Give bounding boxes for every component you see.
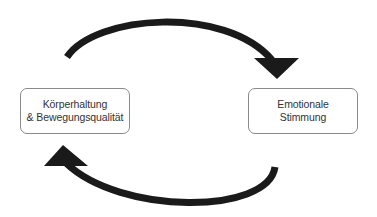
node-label-line: Stimmung: [280, 111, 326, 124]
node-label-line: Körperhaltung: [43, 98, 108, 111]
curved-arrow-left-icon: [44, 145, 275, 203]
curved-arrow-right-icon: [67, 22, 299, 79]
node-body-posture: Körperhaltung & Bewegungsqualität: [20, 88, 130, 134]
node-label-line: & Bewegungsqualität: [27, 111, 124, 124]
node-emotional-mood: Emotionale Stimmung: [248, 88, 358, 134]
node-label-line: Emotionale: [277, 98, 329, 111]
cycle-diagram: Körperhaltung & Bewegungsqualität Emotio…: [0, 0, 377, 217]
